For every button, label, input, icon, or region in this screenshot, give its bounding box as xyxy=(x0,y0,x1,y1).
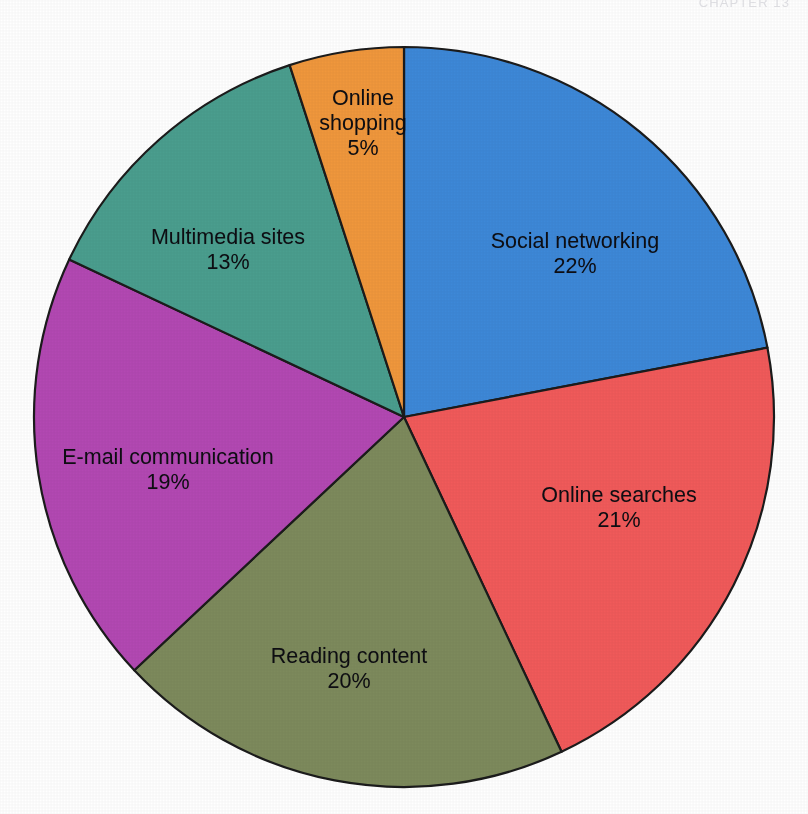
pie-label-value-multimedia-sites: 13% xyxy=(151,250,305,275)
pie-label-value-online-shopping: 5% xyxy=(319,136,406,161)
pie-label-online-searches: Online searches21% xyxy=(541,483,696,533)
pie-label-value-email-communication: 19% xyxy=(62,470,273,495)
pie-label-text-multimedia-sites: Multimedia sites xyxy=(151,225,305,250)
pie-label-text-reading-content: Reading content xyxy=(271,644,428,669)
pie-label-reading-content: Reading content20% xyxy=(271,644,428,694)
pie-label-email-communication: E-mail communication19% xyxy=(62,445,273,495)
pie-label-text-online-shopping: shopping xyxy=(319,111,406,136)
pie-label-multimedia-sites: Multimedia sites13% xyxy=(151,225,305,275)
pie-chart: Social networking22%Online searches21%Re… xyxy=(0,0,808,814)
pie-label-text-online-searches: Online searches xyxy=(541,483,696,508)
pie-label-value-reading-content: 20% xyxy=(271,669,428,694)
pie-label-value-social-networking: 22% xyxy=(491,254,660,279)
pie-label-value-online-searches: 21% xyxy=(541,508,696,533)
pie-label-text-social-networking: Social networking xyxy=(491,229,660,254)
pie-label-text-email-communication: E-mail communication xyxy=(62,445,273,470)
pie-label-online-shopping: Onlineshopping5% xyxy=(319,86,406,161)
pie-label-text-online-shopping: Online xyxy=(319,86,406,111)
pie-label-social-networking: Social networking22% xyxy=(491,229,660,279)
